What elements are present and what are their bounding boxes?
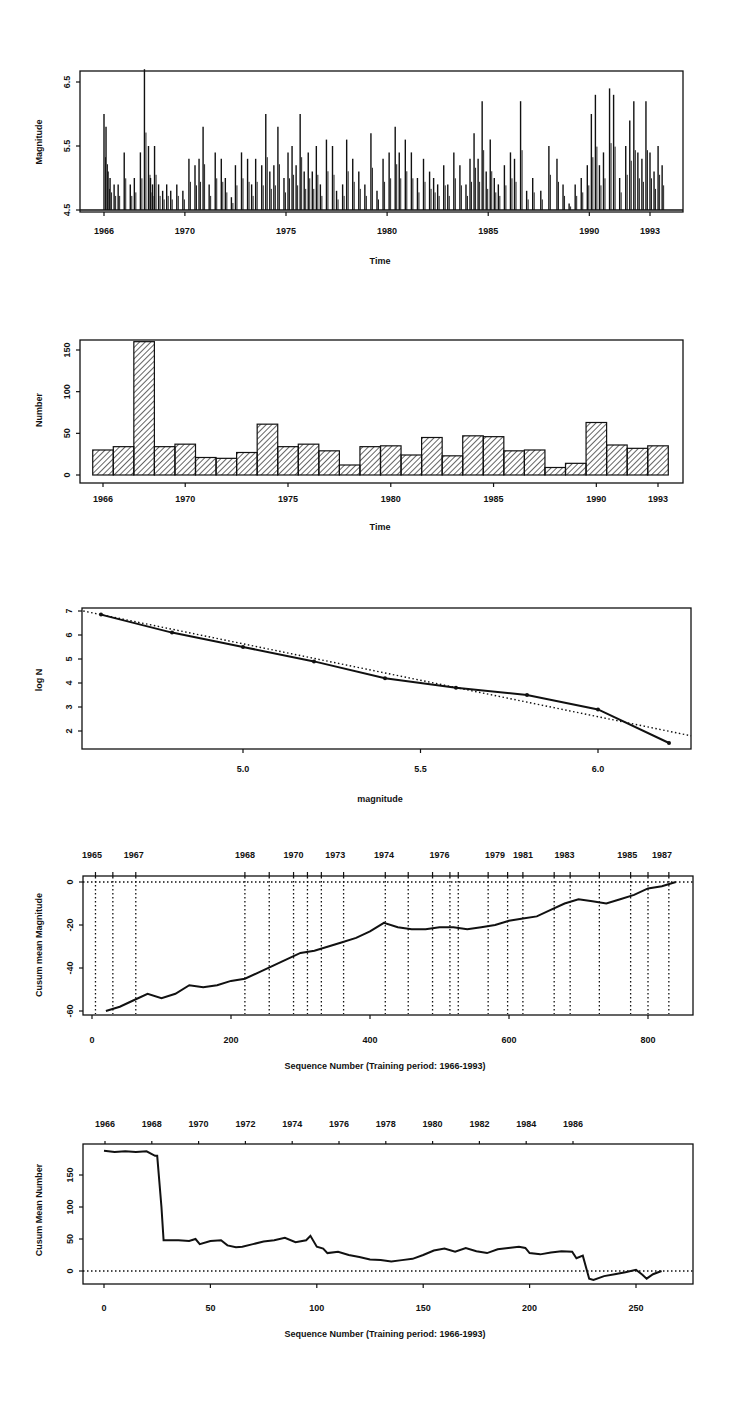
- top-year-label: 1966: [95, 1119, 115, 1129]
- y-tick-label: 50: [65, 1234, 75, 1244]
- x-tick-label: 50: [205, 1303, 215, 1313]
- data-point: [596, 707, 600, 711]
- bar: [463, 436, 484, 475]
- cusum-number-chart: 050100150200250 050100150 19661968197019…: [34, 1119, 693, 1339]
- top-year-label: 1972: [235, 1119, 255, 1129]
- top-year-label: 1983: [555, 850, 575, 860]
- logn-magnitude-chart: 5.05.56.0 234567 magnitude log N: [34, 608, 691, 804]
- data-point: [383, 676, 387, 680]
- x-axis: 0200400600800: [89, 1015, 655, 1045]
- bar: [422, 438, 443, 476]
- y-axis-label: Number: [34, 393, 44, 428]
- x-tick-label: 250: [628, 1303, 643, 1313]
- x-tick-label: 200: [223, 1035, 238, 1045]
- bar: [113, 447, 134, 475]
- fit-line: [83, 611, 691, 736]
- bar: [566, 463, 587, 475]
- x-tick-label: 1966: [93, 494, 113, 504]
- y-tick-label: -60: [65, 1004, 75, 1017]
- cusum-line: [106, 882, 676, 1011]
- bar: [524, 450, 545, 475]
- gutenberg-richter-lines: [83, 611, 691, 745]
- magnitude-time-chart: 1966197019751980198519901993 4.55.56.5 T…: [34, 69, 683, 266]
- top-year-axis: 1965196719681970197319741976197919811983…: [82, 850, 672, 860]
- data-point: [312, 659, 316, 663]
- x-tick-label: 600: [501, 1035, 516, 1045]
- top-year-label: 1979: [485, 850, 505, 860]
- top-year-label: 1984: [516, 1119, 536, 1129]
- top-year-label: 1968: [142, 1119, 162, 1129]
- top-year-label: 1970: [284, 850, 304, 860]
- y-tick-label: 6.5: [62, 76, 72, 89]
- yearly-count-bars: [93, 342, 669, 475]
- data-point: [241, 645, 245, 649]
- top-year-label: 1974: [374, 850, 394, 860]
- y-tick-label: 4: [64, 680, 74, 685]
- y-tick-label: 150: [65, 1167, 75, 1182]
- bar: [319, 451, 340, 475]
- x-tick-label: 1990: [586, 494, 606, 504]
- top-year-label: 1987: [652, 850, 672, 860]
- x-tick-label: 1985: [484, 494, 504, 504]
- top-year-label: 1985: [617, 850, 637, 860]
- y-axis-label: Magnitude: [34, 120, 44, 165]
- bar: [607, 445, 628, 475]
- top-year-label: 1980: [423, 1119, 443, 1129]
- top-year-label: 1976: [429, 850, 449, 860]
- bar: [257, 424, 278, 475]
- y-tick-label: 4.5: [62, 204, 72, 217]
- y-tick-label: 150: [62, 342, 72, 357]
- x-axis-label: Time: [370, 256, 391, 266]
- x-tick-label: 800: [640, 1035, 655, 1045]
- x-tick-label: 5.0: [237, 764, 250, 774]
- x-tick-label: 5.5: [414, 764, 427, 774]
- data-point: [667, 741, 671, 745]
- x-axis: 1966197019751980198519901993: [94, 212, 660, 236]
- bar: [586, 423, 607, 476]
- y-axis: 234567: [64, 608, 82, 733]
- x-tick-label: 0: [101, 1303, 106, 1313]
- cusum-magnitude-chart: 0200400600800 0-20-40-60 196519671968197…: [34, 850, 693, 1071]
- x-axis-label: magnitude: [357, 794, 403, 804]
- bar: [627, 448, 648, 475]
- x-tick-label: 1993: [648, 494, 668, 504]
- x-tick-label: 1975: [278, 494, 298, 504]
- x-axis: 5.05.56.0: [237, 749, 605, 774]
- x-tick-label: 100: [309, 1303, 324, 1313]
- bar: [196, 458, 217, 476]
- bar: [154, 447, 175, 475]
- bar: [216, 458, 237, 475]
- y-tick-label: 50: [62, 428, 72, 438]
- y-tick-label: -40: [65, 961, 75, 974]
- y-axis: 0-20-40-60: [65, 879, 83, 1017]
- x-tick-label: 6.0: [592, 764, 605, 774]
- top-year-label: 1976: [329, 1119, 349, 1129]
- x-tick-label: 1993: [640, 226, 660, 236]
- y-tick-label: 3: [64, 704, 74, 709]
- bar: [237, 453, 258, 476]
- y-tick-label: 2: [64, 728, 74, 733]
- y-axis: 050100150: [65, 1167, 83, 1273]
- bar: [483, 437, 504, 475]
- x-tick-label: 1970: [175, 494, 195, 504]
- data-point: [525, 693, 529, 697]
- y-tick-label: 6: [64, 632, 74, 637]
- x-tick-label: 200: [522, 1303, 537, 1313]
- figure-canvas: 1966197019751980198519901993 4.55.56.5 T…: [0, 0, 733, 1404]
- bar: [134, 342, 155, 475]
- data-point: [170, 631, 174, 635]
- top-year-label: 1974: [282, 1119, 302, 1129]
- bar: [339, 465, 360, 475]
- bar: [648, 446, 669, 475]
- cusum-line: [83, 1151, 693, 1280]
- x-axis: 050100150200250: [101, 1284, 643, 1313]
- x-tick-label: 150: [416, 1303, 431, 1313]
- top-year-label: 1973: [325, 850, 345, 860]
- number-time-chart: 1966197019751980198519901993 050100150 T…: [34, 340, 683, 532]
- bar: [504, 451, 525, 475]
- x-axis: 1966197019751980198519901993: [93, 483, 668, 504]
- y-tick-label: 7: [64, 608, 74, 613]
- top-year-label: 1986: [563, 1119, 583, 1129]
- y-tick-label: 0: [65, 879, 75, 884]
- x-tick-label: 400: [362, 1035, 377, 1045]
